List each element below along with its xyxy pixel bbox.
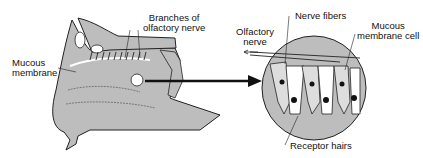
label-branches-line2: olfactory nerve xyxy=(143,23,205,33)
label-cell-line2: membrane cell xyxy=(357,31,419,41)
head-cross-section xyxy=(53,18,220,150)
label-olfactory-nerve: Olfactory nerve xyxy=(236,27,274,47)
label-mucous-line2: membrane xyxy=(12,68,57,78)
label-olfactory-line2: nerve xyxy=(236,37,274,47)
label-receptor-hairs: Receptor hairs xyxy=(290,141,352,151)
label-mucous-membrane: Mucous membrane xyxy=(12,58,57,78)
label-mucous-membrane-cell: Mucous membrane cell xyxy=(357,21,419,41)
label-nerve-fibers: Nerve fibers xyxy=(295,11,346,21)
label-branches-olfactory-nerve: Branches of olfactory nerve xyxy=(143,13,205,33)
